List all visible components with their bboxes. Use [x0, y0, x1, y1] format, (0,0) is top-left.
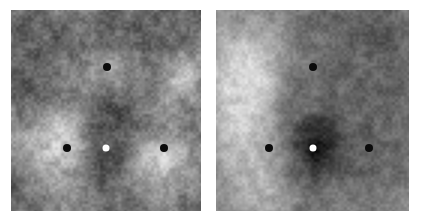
- left-grayscale-map: [11, 10, 201, 211]
- right-grayscale-map: [216, 10, 409, 211]
- left-grayscale-map-canvas: [11, 10, 201, 211]
- right-grayscale-map-canvas: [216, 10, 409, 211]
- figure-root: [0, 0, 423, 222]
